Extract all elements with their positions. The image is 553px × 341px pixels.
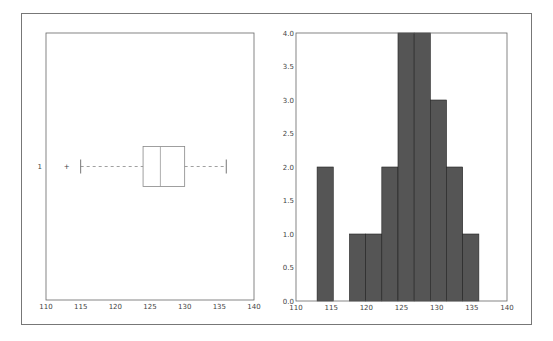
histogram-bar <box>317 167 333 301</box>
x-tick-label: 110 <box>39 303 52 311</box>
x-tick-label: 115 <box>324 304 337 312</box>
x-tick-label: 140 <box>247 303 260 311</box>
histogram-bar <box>430 100 446 301</box>
y-tick-label: 1.0 <box>283 231 294 239</box>
histogram-bar <box>382 167 398 301</box>
histogram-bar <box>398 33 414 301</box>
histogram-bar <box>349 234 365 301</box>
y-tick-label: 4.0 <box>283 30 294 38</box>
y-tick-label: 2.5 <box>283 130 294 138</box>
figure-canvas: 1101151201251301351401+11011512012513013… <box>0 0 553 341</box>
histogram-bar <box>447 167 463 301</box>
x-tick-label: 130 <box>178 303 191 311</box>
histogram-bar <box>463 234 479 301</box>
y-tick-label: 0.5 <box>283 264 294 272</box>
iqr-box <box>143 147 185 187</box>
outlier-marker: + <box>64 163 70 171</box>
histogram-bar <box>366 234 382 301</box>
x-tick-label: 135 <box>465 304 478 312</box>
x-tick-label: 130 <box>430 304 443 312</box>
histogram-bar <box>414 33 430 301</box>
y-tick-label: 1 <box>38 163 42 171</box>
y-tick-label: 3.0 <box>283 97 294 105</box>
y-tick-label: 1.5 <box>283 197 294 205</box>
x-tick-label: 120 <box>109 303 122 311</box>
y-tick-label: 3.5 <box>283 63 294 71</box>
x-tick-label: 125 <box>143 303 156 311</box>
y-tick-label: 0.0 <box>283 298 294 306</box>
y-tick-label: 2.0 <box>283 164 294 172</box>
x-tick-label: 140 <box>500 304 513 312</box>
x-tick-label: 125 <box>395 304 408 312</box>
x-tick-label: 120 <box>360 304 373 312</box>
x-tick-label: 115 <box>74 303 87 311</box>
x-tick-label: 135 <box>213 303 226 311</box>
